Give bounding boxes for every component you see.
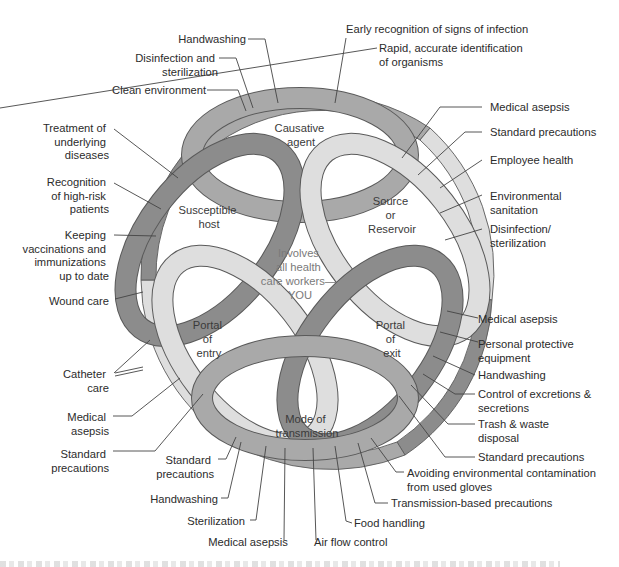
interventions-portal-of-exit: Medical asepsis Personal protective equi… [478, 313, 594, 463]
intervention-label: Standard precautions [478, 451, 585, 463]
intervention-label: Disinfection/ sterilization [490, 223, 554, 249]
intervention-label: Transmission-based precautions [391, 497, 553, 509]
intervention-label: Trash & waste disposal [478, 418, 552, 444]
intervention-label: Clean environment [112, 84, 207, 96]
intervention-label: Avoiding environmental contamination fro… [407, 467, 599, 493]
intervention-label: Wound care [49, 295, 109, 307]
figure-caption-cropped [0, 556, 619, 567]
intervention-label: Medical asepsis [490, 101, 570, 113]
intervention-label: Medical asepsis [67, 411, 109, 437]
intervention-label: Recognition of high-risk patients [47, 176, 110, 215]
interventions-portal-of-entry: Wound care Catheter care Medical asepsis… [49, 295, 110, 474]
interventions-susceptible-host: Treatment of underlying diseases Recogni… [23, 122, 110, 282]
intervention-label: Food handling [354, 517, 425, 529]
label-susceptible-host: Susceptible host [179, 204, 240, 230]
intervention-label: Early recognition of signs of infection [346, 23, 528, 35]
intervention-label: Handwashing [178, 33, 246, 45]
intervention-label: Handwashing [478, 369, 546, 381]
intervention-label: Standard precautions [490, 126, 597, 138]
intervention-label: Handwashing [150, 493, 218, 505]
intervention-label: Personal protective equipment [478, 338, 577, 364]
intervention-label: Medical asepsis [208, 536, 288, 548]
intervention-label: Catheter care [63, 368, 109, 394]
intervention-label: Treatment of underlying diseases [43, 122, 110, 161]
intervention-label: Control of excretions & secretions [478, 388, 594, 414]
caption-text-fragment [0, 561, 560, 567]
intervention-label: Disinfection and sterilization [135, 52, 218, 78]
intervention-label: Rapid, accurate identification of organi… [379, 42, 526, 68]
chain-of-infection-diagram: Causative agent Source or Reservoir Port… [0, 0, 619, 567]
intervention-label: Employee health [490, 154, 573, 166]
interventions-source-reservoir: Medical asepsis Standard precautions Emp… [490, 101, 597, 249]
interventions-causative-agent: Handwashing Disinfection and sterilizati… [112, 23, 528, 96]
intervention-label: Environmental sanitation [490, 190, 565, 216]
intervention-label: Standard precautions [156, 454, 214, 480]
intervention-label: Medical asepsis [478, 313, 558, 325]
intervention-label: Standard precautions [51, 448, 109, 474]
intervention-label: Sterilization [187, 515, 245, 527]
label-source-reservoir: Source or Reservoir [368, 195, 416, 235]
intervention-label: Air flow control [314, 536, 387, 548]
intervention-label: Keeping vaccinations and immunizations u… [23, 229, 109, 282]
